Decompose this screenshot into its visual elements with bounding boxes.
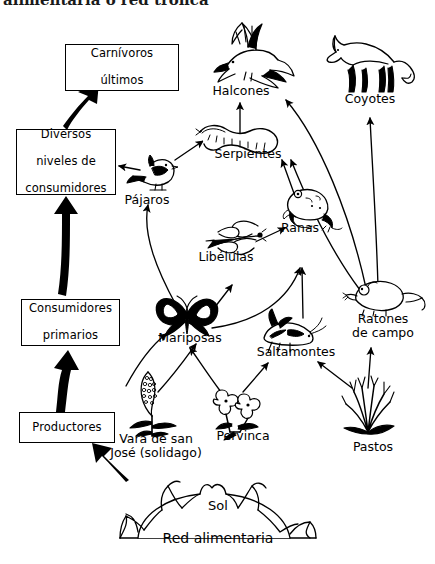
coyote-icon: [327, 36, 414, 92]
box-consumidores-primarios[interactable]: Consumidores primarios: [21, 299, 120, 346]
arrow-pervinca-to-mariposas: [190, 348, 221, 392]
arrow-saltamontes-to-ranas: [302, 268, 303, 318]
box-diversos-line1: Diversos: [22, 128, 109, 142]
diagram-caption: Red alimentaria: [128, 530, 308, 546]
box-carnivoros-line2: últimos: [88, 74, 156, 88]
label-mariposas: Mariposas: [144, 331, 236, 345]
label-ratones-de-campo: Ratones de campo: [344, 312, 422, 339]
arrow-pajaros-to-serpientes: [175, 141, 203, 160]
box-carnivoros-ultimos[interactable]: Carnívoros últimos: [65, 44, 179, 91]
arrow-consumidores-to-diversos: [54, 196, 78, 296]
label-vara-de-san-jose: Vara de san José (solidago): [104, 432, 208, 459]
box-carnivoros-line1: Carnívoros: [88, 47, 156, 61]
arrow-pastos-to-ratones: [368, 348, 371, 388]
label-sol: Sol: [180, 498, 256, 513]
box-productores[interactable]: Productores: [19, 412, 115, 443]
food-web-diagram: alimentaria o red trófica: [0, 0, 435, 564]
box-consumidores-line2: primarios: [26, 329, 115, 343]
label-pervinca: Pervinca: [204, 429, 282, 443]
arrow-pervinca-to-saltamontes: [243, 363, 268, 392]
box-productores-line1: Productores: [29, 421, 104, 435]
arrow-mariposas-to-pajaros: [147, 205, 176, 305]
arrow-vara-to-mariposas: [158, 344, 196, 392]
label-ratones-line2: de campo: [352, 325, 414, 340]
label-serpientes: Serpientes: [204, 147, 292, 161]
arrow-productores-to-consumidores: [54, 350, 79, 412]
label-saltamontes: Saltamontes: [246, 345, 346, 359]
arrow-pastos-to-saltamontes: [318, 362, 352, 388]
label-halcones: Halcones: [198, 84, 284, 98]
box-diversos-line3: consumidores: [22, 182, 109, 196]
label-pajaros: Pájaros: [110, 193, 184, 207]
box-consumidores-line1: Consumidores: [26, 302, 115, 316]
bird-icon: [127, 155, 178, 190]
label-vara-line2: José (solidago): [110, 445, 202, 460]
hawk-icon: [214, 23, 294, 88]
label-pastos: Pastos: [340, 440, 406, 454]
box-diversos-niveles[interactable]: Diversos niveles de consumidores: [16, 129, 116, 195]
box-diversos-line2: niveles de: [22, 155, 109, 169]
label-ranas: Ranas: [268, 221, 332, 235]
arrow-pajaros-to-diversos: [119, 166, 140, 170]
goldenrod-icon: [130, 372, 176, 436]
label-coyotes: Coyotes: [330, 92, 410, 106]
label-libelulas: Libélulas: [186, 250, 266, 264]
arrow-ratones-to-coyotes: [370, 118, 378, 286]
